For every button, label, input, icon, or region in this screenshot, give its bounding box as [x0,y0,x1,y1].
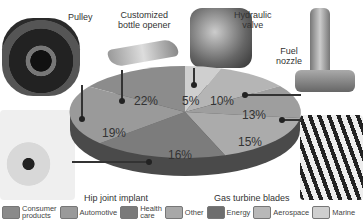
pct-10: 10% [210,94,234,108]
pct-16: 16% [168,148,192,162]
dot-opener [119,98,125,104]
dot-valve [191,82,197,88]
pct-13: 13% [242,108,266,122]
pct-5: 5% [182,94,199,108]
label-fuel-nozzle: Fuel nozzle [276,46,302,66]
dot-pulley [79,116,85,122]
dot-fuel [242,92,248,98]
pct-19: 19% [102,126,126,140]
label-gas-turbine: Gas turbine blades [214,193,290,203]
legend-health-care: Healthcare [120,205,162,219]
legend-aerospace: Aerospace [253,206,309,219]
leader-hip [72,161,150,163]
legend-automotive: Automotive [60,206,118,219]
leader-fuel [245,94,301,96]
pct-22: 22% [134,94,158,108]
leader-turbine [282,119,302,121]
legend-marine: Marine [312,206,355,219]
leader-opener [121,70,123,100]
label-hip-implant: Hip joint implant [84,193,148,203]
leader-pulley [81,85,83,118]
label-bottle-opener: Customized bottle opener [118,10,171,30]
legend-consumer-products: Consumerproducts [2,205,57,219]
pct-15: 15% [238,135,262,149]
dot-hip [146,159,152,165]
legend-other: Other [165,206,204,219]
legend: Consumerproducts Automotive Healthcare O… [2,205,355,219]
dot-turbine [279,117,285,123]
label-pulley: Pulley [68,12,93,22]
legend-energy: Energy [207,206,251,219]
pie-chart [0,0,363,224]
label-hydraulic-valve: Hydraulic valve [234,10,272,30]
pie-top [70,66,301,158]
